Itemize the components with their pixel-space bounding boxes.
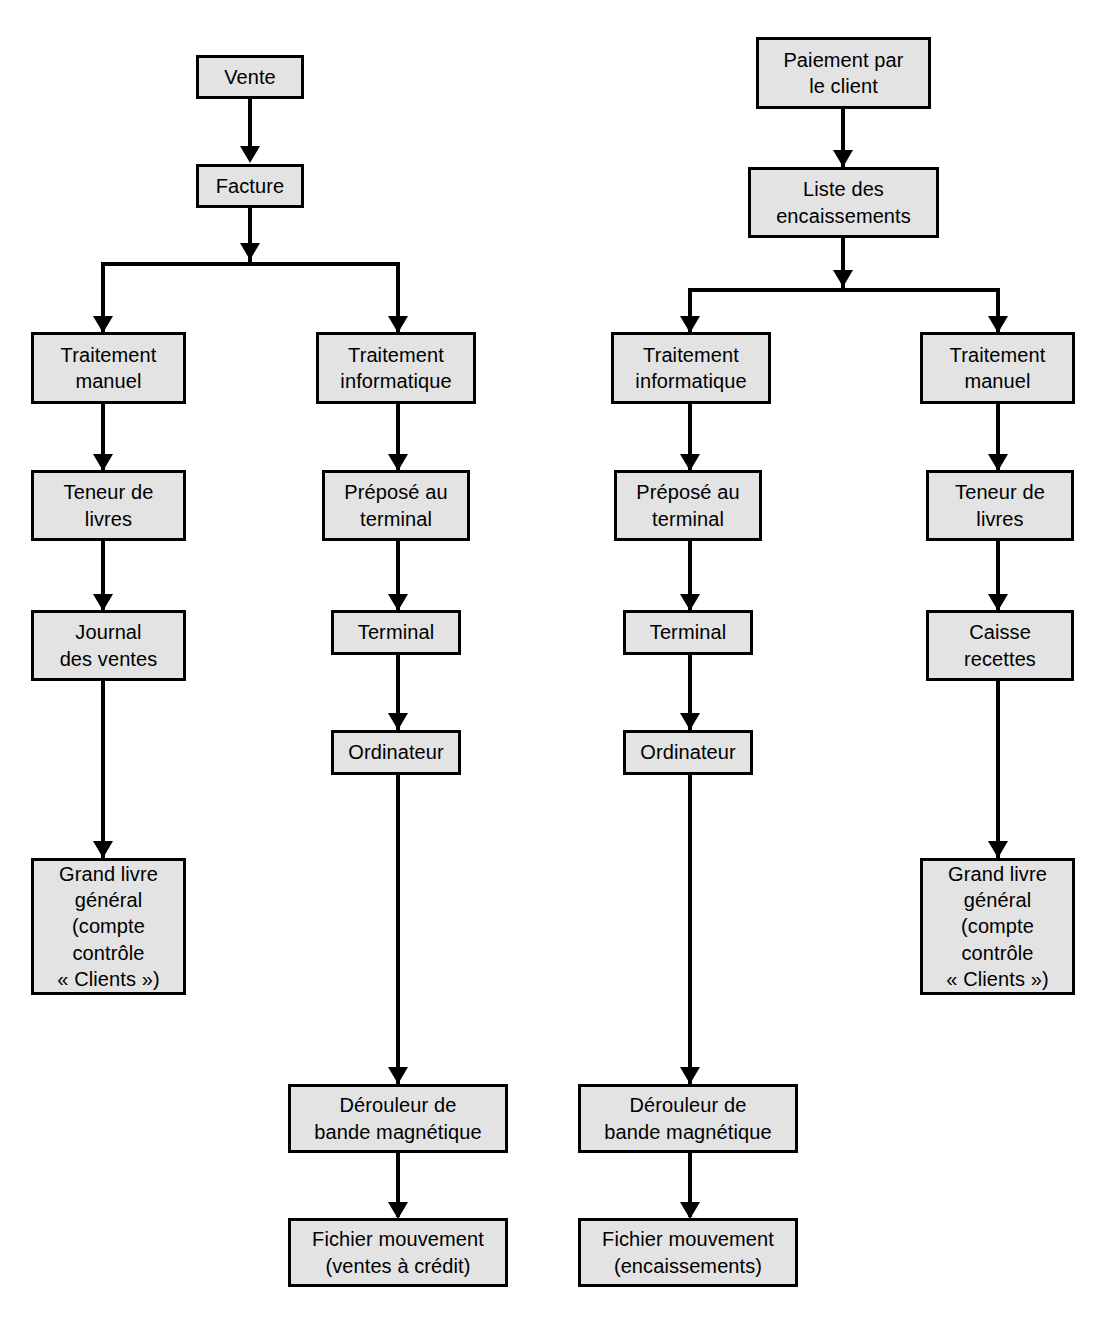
arrowhead-col2 [388,316,408,333]
arrowhead-col4 [988,316,1008,333]
arrowhead-derouleur1 [388,1067,408,1084]
node-vente: Vente [196,55,304,99]
arrowhead-split-left [240,243,260,260]
node-ordinateur-1: Ordinateur [331,730,461,775]
flowchart-canvas: Vente Facture Traitement manuel Teneur d… [0,0,1109,1339]
arrowhead-prepose2 [680,454,700,471]
node-fichier-mouvement-1: Fichier mouvement (ventes à crédit) [288,1218,508,1287]
edge-caisse-to-grandlivre2 [996,681,1000,858]
arrowhead-terminal2 [680,594,700,611]
arrowhead-fichier1 [388,1202,408,1219]
arrowhead-grandlivre1 [93,841,113,858]
node-terminal-1: Terminal [331,610,461,655]
arrowhead-col1 [93,316,113,333]
node-traitement-informatique-2: Traitement informatique [611,332,771,404]
arrowhead-teneur1 [93,454,113,471]
node-traitement-manuel-1: Traitement manuel [31,332,186,404]
arrowhead-teneur2 [988,454,1008,471]
node-facture: Facture [196,164,304,208]
arrowhead-split-right [833,270,853,287]
node-derouleur-2: Dérouleur de bande magnétique [578,1084,798,1153]
arrowhead-col3 [680,316,700,333]
node-caisse-recettes: Caisse recettes [926,610,1074,681]
node-grand-livre-2: Grand livre général (compte contrôle « C… [920,858,1075,995]
arrowhead-fichier2 [680,1202,700,1219]
node-terminal-2: Terminal [623,610,753,655]
node-grand-livre-1: Grand livre général (compte contrôle « C… [31,858,186,995]
node-prepose-terminal-1: Préposé au terminal [322,470,470,541]
arrowhead-prepose1 [388,454,408,471]
arrowhead-journal [93,594,113,611]
node-derouleur-1: Dérouleur de bande magnétique [288,1084,508,1153]
edge-vente-to-facture [248,99,252,149]
arrowhead-ordinateur2 [680,713,700,730]
edge-journal-to-grandlivre1 [101,681,105,858]
node-journal-ventes: Journal des ventes [31,610,186,681]
arrowhead-liste [833,150,853,167]
arrowhead-ordinateur1 [388,713,408,730]
node-paiement-client: Paiement par le client [756,37,931,109]
edge-split-bar-right [688,288,1000,292]
node-liste-encaissements: Liste des encaissements [748,167,939,238]
arrowhead-terminal1 [388,594,408,611]
arrowhead-derouleur2 [680,1067,700,1084]
node-traitement-manuel-2: Traitement manuel [920,332,1075,404]
edge-ordinateur1-to-derouleur1 [396,775,400,1084]
node-prepose-terminal-2: Préposé au terminal [614,470,762,541]
arrowhead-caisse [988,594,1008,611]
node-fichier-mouvement-2: Fichier mouvement (encaissements) [578,1218,798,1287]
arrowhead-grandlivre2 [988,841,1008,858]
node-teneur-livres-2: Teneur de livres [926,470,1074,541]
arrowhead-facture [240,146,260,163]
node-teneur-livres-1: Teneur de livres [31,470,186,541]
node-traitement-informatique-1: Traitement informatique [316,332,476,404]
edge-ordinateur2-to-derouleur2 [688,775,692,1084]
node-ordinateur-2: Ordinateur [623,730,753,775]
edge-split-bar-left [101,262,400,266]
